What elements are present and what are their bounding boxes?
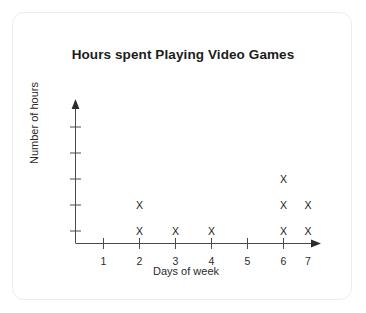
- y-axis-arrowhead: [72, 99, 80, 109]
- x-axis-group: [76, 238, 322, 249]
- x-axis-arrowhead: [311, 240, 321, 248]
- data-marker: X: [277, 198, 291, 212]
- data-marker: X: [205, 224, 219, 238]
- data-marker: X: [301, 198, 315, 212]
- x-axis-label: Days of week: [59, 265, 313, 277]
- data-marker: X: [277, 172, 291, 186]
- data-marker: X: [133, 224, 147, 238]
- data-marker: X: [301, 224, 315, 238]
- plot-area: 1 2 3 4 5 6 7 X X X X X X X X X Number o…: [13, 13, 353, 301]
- data-marker: X: [277, 224, 291, 238]
- data-marker: X: [133, 198, 147, 212]
- y-axis-group: [70, 99, 81, 243]
- chart-card: Hours spent Playing Video Games: [12, 12, 352, 300]
- data-marker: X: [169, 224, 183, 238]
- y-axis-label: Number of hours: [28, 58, 40, 188]
